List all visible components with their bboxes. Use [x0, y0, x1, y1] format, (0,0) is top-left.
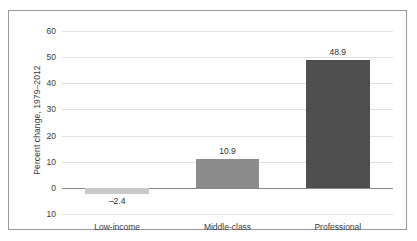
figure-border: Percent change, 1979–2012 60504030201001… [8, 10, 407, 230]
gridline [62, 214, 393, 215]
gridline [62, 57, 393, 58]
chart-figure: Percent change, 1979–2012 60504030201001… [0, 0, 417, 241]
bar-value-label: 48.9 [330, 47, 347, 57]
bar [196, 159, 260, 187]
y-axis-tick-label: 40 [47, 78, 56, 88]
bar [306, 60, 370, 188]
y-axis-title: Percent change, 1979–2012 [32, 45, 42, 195]
bar-value-label: –2.4 [109, 196, 126, 206]
y-axis-tick-label: 10 [47, 209, 56, 219]
y-axis-tick-label: 30 [47, 104, 56, 114]
y-axis-tick-label: 50 [47, 52, 56, 62]
plot-area: 605040302010010–2.4Low-income10.9Middle-… [62, 31, 393, 214]
y-axis-tick-label: 10 [47, 157, 56, 167]
x-axis-category-label: Professional [314, 222, 361, 232]
gridline [62, 31, 393, 32]
y-axis-tick-label: 60 [47, 26, 56, 36]
y-axis-tick-label: 20 [47, 131, 56, 141]
x-axis-category-label: Middle-class [204, 222, 251, 232]
bar-value-label: 10.9 [219, 146, 236, 156]
x-axis-category-label: Low-income [94, 222, 140, 232]
bar [85, 188, 149, 194]
y-axis-tick-label: 0 [51, 183, 56, 193]
